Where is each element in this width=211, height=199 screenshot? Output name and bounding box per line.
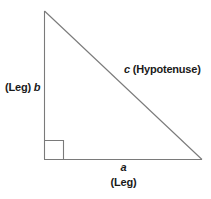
right-triangle-diagram: (Leg) b c (Hypotenuse) a (Leg) (0, 0, 211, 199)
label-leg-a-variable: a (121, 161, 127, 173)
label-leg-b: (Leg) b (5, 81, 40, 94)
right-angle-marker (45, 141, 64, 160)
label-leg-a-suffix-wrap: (Leg) (36, 176, 211, 189)
label-hypotenuse-name: (Hypotenuse) (133, 63, 201, 75)
label-leg-a-suffix: (Leg) (111, 176, 137, 188)
label-leg-b-prefix: (Leg) (5, 81, 31, 93)
label-leg-a-variable-wrap: a (36, 161, 211, 174)
label-leg-b-variable: b (34, 81, 41, 93)
label-hypotenuse: c (Hypotenuse) (124, 63, 201, 76)
hypotenuse-line (45, 11, 203, 160)
label-hypotenuse-variable: c (124, 63, 130, 75)
